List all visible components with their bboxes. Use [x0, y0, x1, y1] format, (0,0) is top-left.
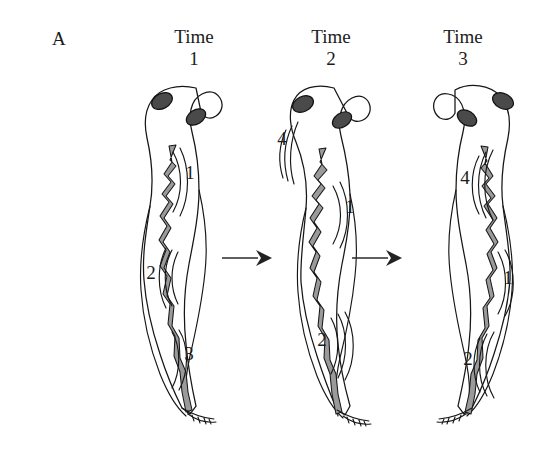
tadpole-3-wave-label-4: 4	[456, 167, 474, 189]
tadpole-3-body	[434, 85, 517, 424]
tadpole-time-3-drawing	[0, 0, 555, 462]
tadpole-3-wave-label-2: 2	[459, 348, 477, 370]
tadpole-3-wave-label-1: 1	[499, 267, 517, 289]
figure-panel-a: A Time 1 Time 2 Time 3	[0, 0, 555, 462]
